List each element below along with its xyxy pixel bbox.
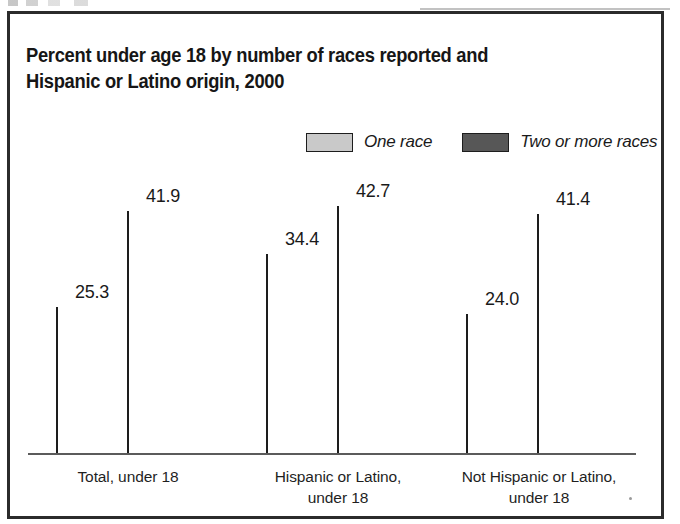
x-axis-label-hispanic-or-latino-under-18: Hispanic or Latino, under 18 — [258, 466, 418, 508]
scan-speck — [629, 497, 632, 500]
x-axis-label-total-under-18: Total, under 18 — [48, 466, 208, 487]
bar-chart-plot: 25.3 41.9 34.4 42.7 24.0 41.4 Total, und… — [0, 0, 680, 524]
bar-slot-one-race: 34.4 — [266, 193, 338, 453]
x-axis-label-not-hispanic-or-latino-under-18: Not Hispanic or Latino, under 18 — [456, 466, 622, 508]
bar-slot-two-or-more-races: 41.4 — [537, 193, 609, 453]
bar-value-label: 41.4 — [537, 190, 609, 208]
bar-group-not-hispanic-or-latino-under-18: 24.0 41.4 — [466, 193, 610, 453]
bar-value-label: 42.7 — [337, 182, 409, 200]
bar-value-label: 24.0 — [466, 290, 538, 308]
bar-slot-one-race: 24.0 — [466, 193, 538, 453]
bar-group-hispanic-or-latino-under-18: 34.4 42.7 — [266, 193, 410, 453]
bar-value-label: 25.3 — [56, 283, 128, 301]
bar-one-race — [266, 254, 268, 453]
bar-one-race — [56, 307, 58, 453]
bar-slot-one-race: 25.3 — [56, 193, 128, 453]
bar-value-label: 41.9 — [127, 187, 199, 205]
bar-value-label: 34.4 — [266, 230, 338, 248]
bar-two-or-more-races — [127, 211, 129, 453]
bar-two-or-more-races — [337, 206, 339, 453]
bar-slot-two-or-more-races: 41.9 — [127, 193, 199, 453]
bar-group-total-under-18: 25.3 41.9 — [56, 193, 200, 453]
bar-two-or-more-races — [537, 214, 539, 453]
bar-one-race — [466, 314, 468, 453]
bar-slot-two-or-more-races: 42.7 — [337, 193, 409, 453]
x-axis-line — [28, 453, 636, 455]
